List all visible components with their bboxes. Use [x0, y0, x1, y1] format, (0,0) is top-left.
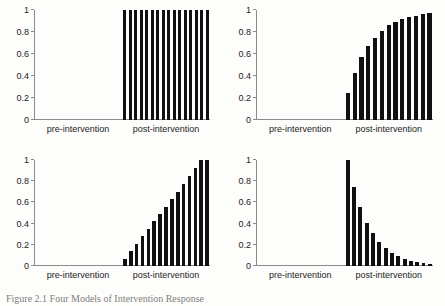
y-tick-label: 1 [24, 156, 29, 165]
y-tick-label: 0 [24, 262, 29, 271]
bar [182, 184, 186, 266]
bar [400, 19, 404, 120]
bar [129, 10, 132, 120]
bar [206, 10, 209, 120]
bar-series-bottom-left [34, 160, 210, 266]
panel-bottom-left: 00.20.40.60.81 pre-intervention post-int… [0, 152, 222, 292]
bar [170, 199, 174, 266]
x-label-group-bottom-left: pre-intervention post-intervention [34, 268, 210, 282]
bar [195, 10, 198, 120]
bar [189, 10, 192, 120]
y-tick-label: 0 [246, 262, 251, 271]
x-label-pre: pre-intervention [34, 268, 122, 282]
bar [407, 17, 411, 120]
bar [194, 168, 198, 266]
bar [371, 233, 375, 266]
x-label-post: post-intervention [345, 268, 434, 282]
y-tick-label: 0.8 [238, 28, 251, 37]
bar-series-top-right [256, 10, 433, 120]
x-label-pre: pre-intervention [34, 122, 122, 136]
x-label-post: post-intervention [122, 122, 210, 136]
bar [173, 10, 176, 120]
bar [422, 263, 426, 266]
bar [205, 160, 209, 266]
bar [421, 14, 425, 120]
bar [158, 214, 162, 266]
bar [123, 10, 126, 120]
y-tick-label: 0.8 [16, 177, 29, 186]
y-tick-label: 0.4 [238, 72, 251, 81]
bar [200, 10, 203, 120]
bar [129, 251, 133, 266]
bar [415, 262, 419, 266]
bar [145, 10, 148, 120]
figure-caption-strip: Figure 2.1 Four Models of Intervention R… [0, 292, 445, 306]
bar [178, 10, 181, 120]
plot-area-bottom-left: 00.20.40.60.81 [34, 160, 210, 266]
y-tick-label: 1 [24, 6, 29, 15]
bar [346, 160, 350, 266]
bar [353, 73, 357, 120]
bar [352, 187, 356, 267]
panel-top-left: 00.20.40.60.81 pre-intervention post-int… [0, 0, 222, 152]
bar [346, 93, 350, 121]
x-label-pre: pre-intervention [256, 122, 345, 136]
bar [176, 192, 180, 266]
bar [373, 38, 377, 121]
bar [366, 46, 370, 120]
bar [140, 10, 143, 120]
bar-series-bottom-right [256, 160, 433, 266]
y-tick-label: 1 [246, 6, 251, 15]
bar [403, 259, 407, 266]
y-tick-label: 0.6 [238, 198, 251, 207]
panel-grid: 00.20.40.60.81 pre-intervention post-int… [0, 0, 445, 292]
x-label-group-top-left: pre-intervention post-intervention [34, 122, 210, 136]
y-tick-label: 0.8 [238, 177, 251, 186]
bar [141, 236, 145, 266]
bar [164, 207, 168, 266]
bar [151, 10, 154, 120]
x-label-group-bottom-right: pre-intervention post-intervention [256, 268, 433, 282]
x-label-pre: pre-intervention [256, 268, 345, 282]
bar [428, 264, 432, 266]
y-tick-label: 0.2 [16, 240, 29, 249]
x-label-group-top-right: pre-intervention post-intervention [256, 122, 433, 136]
y-tick-label: 0.2 [238, 240, 251, 249]
bar [390, 253, 394, 266]
bar [162, 10, 165, 120]
bar [393, 22, 397, 120]
bar [427, 13, 431, 120]
bar [199, 160, 203, 266]
plot-area-bottom-right: 00.20.40.60.81 [256, 160, 433, 266]
plot-area-top-right: 00.20.40.60.81 [256, 10, 433, 120]
bar [387, 25, 391, 120]
bar [384, 248, 388, 266]
y-tick-label: 0.2 [16, 94, 29, 103]
bar [380, 31, 384, 120]
bar [184, 10, 187, 120]
y-tick-label: 1 [246, 156, 251, 165]
x-label-post: post-intervention [122, 268, 210, 282]
y-tick-label: 0.6 [16, 198, 29, 207]
panel-bottom-right: 00.20.40.60.81 pre-intervention post-int… [222, 152, 445, 292]
bar [414, 16, 418, 121]
bar [359, 57, 363, 120]
bar [188, 176, 192, 266]
y-tick-label: 0.6 [238, 50, 251, 59]
bar [147, 229, 151, 266]
y-tick-label: 0 [24, 116, 29, 125]
bar [156, 10, 159, 120]
bar [167, 10, 170, 120]
bar [409, 261, 413, 266]
y-tick-label: 0.6 [16, 50, 29, 59]
bar [135, 244, 139, 266]
y-tick-label: 0.4 [16, 219, 29, 228]
figure-root: 00.20.40.60.81 pre-intervention post-int… [0, 0, 445, 306]
y-tick-label: 0.4 [238, 219, 251, 228]
y-tick-label: 0 [246, 116, 251, 125]
y-tick-label: 0.4 [16, 72, 29, 81]
figure-caption: Figure 2.1 Four Models of Intervention R… [6, 293, 204, 304]
y-tick-label: 0.8 [16, 28, 29, 37]
panel-top-right: 00.20.40.60.81 pre-intervention post-int… [222, 0, 445, 152]
plot-area-top-left: 00.20.40.60.81 [34, 10, 210, 120]
